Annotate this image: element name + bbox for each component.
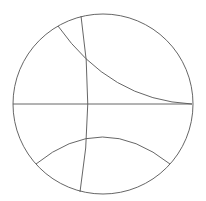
lower-geodesic-arc bbox=[36, 137, 170, 164]
poincare-disk-diagram bbox=[0, 0, 206, 201]
upper-geodesic-arc bbox=[58, 26, 192, 104]
